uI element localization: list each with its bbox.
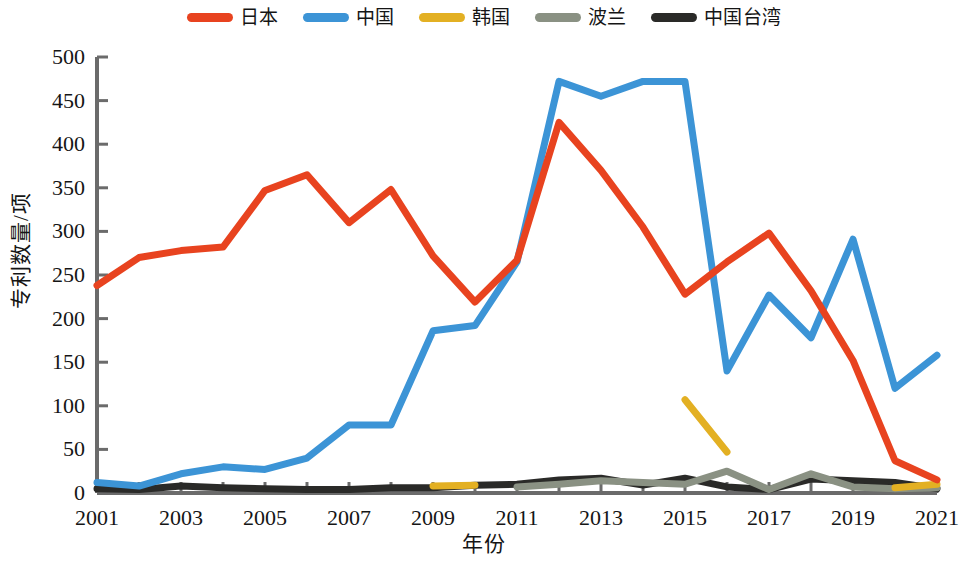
plot-area: 500450400350300250200150100500 200120032… <box>0 0 968 563</box>
series-line-日本 <box>97 122 937 480</box>
y-axis-tick-label: 150 <box>23 351 85 373</box>
y-axis-tick-label: 450 <box>23 90 85 112</box>
x-axis-tick-label: 2009 <box>393 507 473 529</box>
y-axis-tick-label: 500 <box>23 46 85 68</box>
x-axis-tick-label: 2011 <box>477 507 557 529</box>
y-axis-tick-label: 200 <box>23 308 85 330</box>
series-line-中国 <box>97 81 937 486</box>
x-axis-tick-label: 2001 <box>57 507 137 529</box>
series-line-韩国 <box>895 484 937 487</box>
x-axis-tick-label: 2005 <box>225 507 305 529</box>
x-axis-tick-label: 2007 <box>309 507 389 529</box>
x-axis-title: 年份 <box>0 534 968 555</box>
x-axis-tick-label: 2015 <box>645 507 725 529</box>
axis-layer <box>97 57 937 493</box>
plot-svg <box>0 0 968 563</box>
x-axis-tick-label: 2013 <box>561 507 641 529</box>
x-axis-tick-label: 2021 <box>897 507 968 529</box>
series-layer <box>97 81 937 489</box>
y-axis-tick-label: 100 <box>23 395 85 417</box>
series-line-韩国 <box>685 400 727 452</box>
y-axis-tick-label: 50 <box>23 438 85 460</box>
patent-count-line-chart: 日本中国韩国波兰中国台湾 500450400350300250200150100… <box>0 0 968 563</box>
x-axis-tick-label: 2003 <box>141 507 221 529</box>
series-line-韩国 <box>433 485 475 486</box>
y-axis-tick-label: 0 <box>23 482 85 504</box>
y-axis-tick-label: 400 <box>23 133 85 155</box>
x-axis-tick-label: 2017 <box>729 507 809 529</box>
y-axis-title: 专利数量/项 <box>11 186 32 316</box>
x-axis-tick-label: 2019 <box>813 507 893 529</box>
